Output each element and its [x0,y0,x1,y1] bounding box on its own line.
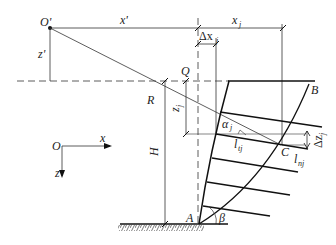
label-x-j: x [231,13,238,27]
label-H: H [147,146,161,157]
nail-4 [207,182,290,195]
label-x-prime: x' [119,13,128,27]
label-delta-z-j-sub: j [318,132,327,136]
label-C: C [281,145,290,159]
label-A: A [185,211,194,225]
slip-surface-curve [199,84,309,224]
label-x-axis: x [99,131,106,145]
label-z-prime: z' [37,47,46,61]
label-origin: O [52,139,61,153]
label-delta-x-j: Δx [199,29,213,43]
label-origin-prime: O' [40,15,52,29]
nail-2 [216,134,308,149]
label-alpha-j: α [222,117,229,131]
label-R: R [146,93,155,107]
label-z-axis: z [54,166,60,180]
z-axis-arrow [59,170,65,178]
label-beta: β [218,211,225,225]
label-l-tj-sub: tj [238,144,243,153]
nail-3 [212,158,298,172]
wall-face [199,81,229,224]
label-delta-x-j-sub: j [215,36,219,45]
slope-diagram: O' x' z' x j Δx j Q R B z j α j l tj C Δ… [0,0,336,245]
label-z-j-sub: j [175,104,184,108]
label-alpha-j-sub: j [229,123,233,132]
nail-1 [220,112,322,127]
label-delta-z-j: Δz [311,135,325,148]
label-l-nj-sub: nj [298,159,305,168]
label-Q: Q [181,64,190,78]
label-B: B [311,83,319,97]
radius-line [50,28,281,145]
ground-hatch [118,225,204,231]
